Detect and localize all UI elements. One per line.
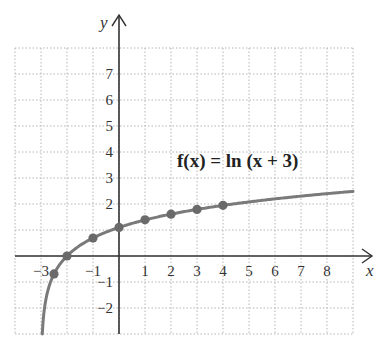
function-equation-label: f(x) = ln (x + 3)	[177, 150, 298, 172]
data-point	[140, 215, 149, 224]
data-point	[166, 210, 175, 219]
x-tick-label: 5	[245, 263, 253, 279]
y-tick-label: −1	[97, 274, 113, 290]
x-tick-label: 4	[219, 263, 227, 279]
y-tick-label: 4	[106, 144, 114, 160]
x-tick-label: 3	[193, 263, 201, 279]
graph-of-ln-function: −3−112345678−2−1234567 x y f(x) = ln (x …	[0, 0, 384, 355]
grid-lines	[15, 48, 353, 334]
tick-labels: −3−112345678−2−1234567	[33, 66, 331, 316]
data-points	[49, 201, 227, 279]
axes	[15, 15, 372, 334]
y-tick-label: 6	[106, 92, 114, 108]
y-tick-label: 2	[106, 196, 114, 212]
x-tick-label: −3	[33, 263, 49, 279]
x-tick-label: 7	[297, 263, 305, 279]
x-tick-label: 6	[271, 263, 279, 279]
data-point	[62, 251, 71, 260]
data-point	[218, 201, 227, 210]
y-tick-label: 3	[106, 170, 114, 186]
data-point	[114, 223, 123, 232]
data-point	[49, 269, 58, 278]
y-tick-label: −2	[97, 300, 113, 316]
x-tick-label: 2	[167, 263, 175, 279]
x-tick-label: 8	[323, 263, 331, 279]
y-tick-label: 7	[106, 66, 114, 82]
x-tick-label: 1	[141, 263, 149, 279]
y-tick-label: 5	[106, 118, 114, 134]
x-axis-label: x	[365, 261, 374, 280]
data-point	[192, 205, 201, 214]
y-axis-label: y	[98, 13, 108, 32]
data-point	[88, 233, 97, 242]
